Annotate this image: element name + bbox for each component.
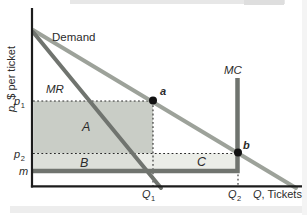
scan-artifact-top-right	[244, 0, 284, 5]
q1-label: Q1	[142, 188, 155, 203]
region-a	[34, 101, 154, 154]
point-a-label: a	[160, 85, 166, 97]
mr-label: MR	[46, 83, 64, 95]
region-a-label: A	[81, 120, 90, 134]
monopoly-pricing-figure: Demand MR MC p1 p2 m Q1 Q2 Q, Tickets p,…	[0, 0, 307, 215]
x-axis-label: Q, Tickets	[253, 188, 302, 200]
scan-artifact-bottom	[10, 206, 302, 213]
scan-artifact-right-edge	[302, 0, 307, 215]
y-axis-label: p, $ per ticket	[5, 46, 17, 113]
p2-label: p2	[13, 148, 25, 163]
region-b-label: B	[80, 156, 88, 170]
region-c	[133, 154, 237, 172]
region-c-label: C	[197, 155, 207, 169]
region-b	[34, 154, 148, 172]
point-b-label: b	[243, 139, 250, 151]
demand-label: Demand	[52, 31, 95, 43]
figure-canvas: Demand MR MC p1 p2 m Q1 Q2 Q, Tickets p,…	[0, 0, 307, 215]
point-a	[149, 97, 157, 105]
q2-label: Q2	[228, 188, 241, 203]
m-label: m	[19, 165, 28, 177]
mc-label: MC	[224, 64, 243, 76]
point-b	[234, 149, 242, 157]
